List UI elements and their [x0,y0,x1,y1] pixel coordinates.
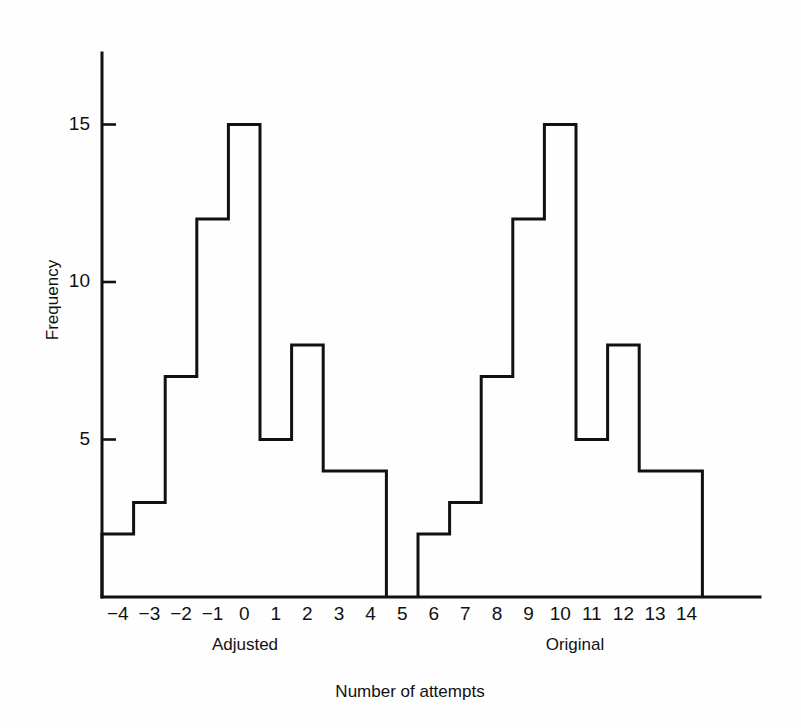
x-tick-label: 2 [302,603,313,624]
x-tick-label: 13 [644,603,665,624]
y-tick-label: 15 [69,113,90,134]
x-tick-label: 9 [523,603,534,624]
y-tick-label: 5 [79,428,90,449]
x-axis-title: Number of attempts [335,682,484,701]
y-axis-title: Frequency [43,259,62,340]
y-tick-label: 10 [69,270,90,291]
x-tick-label: 1 [271,603,282,624]
x-tick-label: −1 [202,603,224,624]
x-tick-label: 12 [613,603,634,624]
x-tick-label: 3 [334,603,345,624]
x-tick-label: 8 [492,603,503,624]
x-tick-label: 10 [550,603,571,624]
x-tick-label: −2 [170,603,192,624]
x-tick-label: −3 [139,603,161,624]
x-tick-label: 11 [582,603,602,624]
group-label-adjusted: Adjusted [212,635,278,654]
group-label-original: Original [546,635,605,654]
x-tick-label: 5 [397,603,408,624]
x-tick-label: 7 [460,603,471,624]
x-tick-label: 6 [429,603,440,624]
x-tick-labels: −4−3−2−101234567891011121314 [107,603,698,624]
x-tick-label: 14 [676,603,698,624]
histogram-plot: 51015 −4−3−2−101234567891011121314 Adjus… [0,0,801,728]
histogram-bar-group [418,125,702,598]
x-tick-label: 4 [365,603,376,624]
histogram-bar-group [102,125,386,598]
x-tick-label: −4 [107,603,129,624]
bars-layer [102,125,702,598]
histogram-figure: 51015 −4−3−2−101234567891011121314 Adjus… [0,0,801,728]
y-tick-marks [102,125,116,440]
x-tick-label: 0 [239,603,250,624]
y-tick-labels: 51015 [69,113,90,449]
